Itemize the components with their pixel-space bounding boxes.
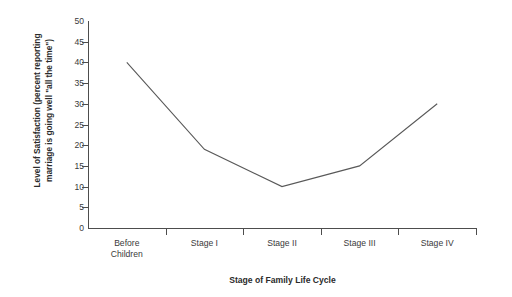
y-axis-tick-labels: 50454035302520151050 [52, 16, 84, 232]
y-axis-tick-label: 10 [52, 182, 84, 192]
x-axis-tick-label: Stage IV [398, 238, 476, 249]
x-axis-tick-label: Stage I [166, 238, 244, 249]
y-axis-tick-mark [82, 42, 88, 43]
y-axis-tick-label: 5 [52, 202, 84, 212]
x-axis-tick-mark [321, 229, 322, 235]
satisfaction-line-series [88, 21, 476, 229]
y-axis-tick-mark [82, 83, 88, 84]
y-axis-tick-label: 15 [52, 161, 84, 171]
x-axis-tick-mark [398, 229, 399, 235]
x-axis-tick-label: Stage II [243, 238, 321, 249]
y-axis-tick-label: 25 [52, 120, 84, 130]
x-axis-tick-label: Stage III [321, 238, 399, 249]
y-axis-tick-mark [82, 125, 88, 126]
y-axis-tick-mark [82, 104, 88, 105]
y-axis-tick-mark [82, 207, 88, 208]
chart-figure: Level of Satisfaction (percent reporting… [0, 0, 512, 297]
x-axis-tick-mark [476, 229, 477, 235]
y-axis-tick-mark [82, 62, 88, 63]
y-axis-tick-label: 40 [52, 57, 84, 67]
y-axis-tick-mark [82, 187, 88, 188]
y-axis-tick-label: 20 [52, 140, 84, 150]
y-axis-tick-label: 0 [52, 223, 84, 233]
x-axis-title: Stage of Family Life Cycle [88, 275, 477, 285]
y-axis-title-container: Level of Satisfaction (percent reporting… [0, 0, 56, 232]
y-axis-tick-mark [82, 166, 88, 167]
x-axis-tick-label: Before Children [88, 238, 166, 260]
y-axis-tick-label: 30 [52, 99, 84, 109]
y-axis-tick-label: 50 [52, 16, 84, 26]
y-axis-tick-label: 45 [52, 37, 84, 47]
y-axis-tick-label: 35 [52, 78, 84, 88]
x-axis-tick-mark [166, 229, 167, 235]
x-axis-tick-mark [243, 229, 244, 235]
y-axis-tick-mark [82, 145, 88, 146]
